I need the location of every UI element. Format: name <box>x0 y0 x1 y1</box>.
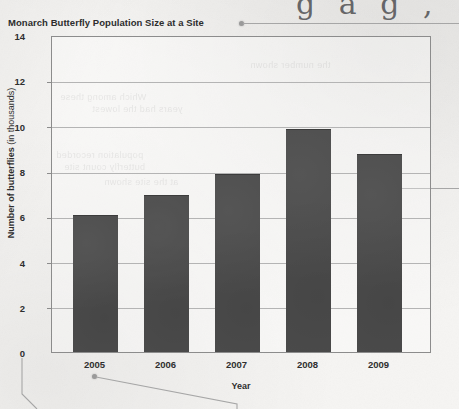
x-tick-label-2006: 2006 <box>155 359 176 370</box>
y-tick-label-12: 12 <box>5 76 25 87</box>
y-tick-label-2: 2 <box>5 303 25 314</box>
y-tick-label-6: 6 <box>5 212 25 223</box>
y-tick-label-10: 10 <box>5 122 25 133</box>
y-axis-title-unit: (in thousands) <box>6 88 16 148</box>
x-axis-title: Year <box>231 381 250 391</box>
gridline-12 <box>52 82 430 83</box>
y-tick-label-14: 14 <box>5 31 25 42</box>
title-leader-line <box>243 23 459 24</box>
chart-title: Monarch Butterfly Population Size at a S… <box>8 17 204 28</box>
x-tick-label-2009: 2009 <box>368 359 389 370</box>
handwritten-note: g a g , <box>296 0 439 21</box>
y-tick-label-8: 8 <box>5 167 25 178</box>
bar-2005 <box>73 215 118 352</box>
y-tick-label-4: 4 <box>5 258 25 269</box>
bar-2007 <box>215 174 260 352</box>
x-tick-label-2005: 2005 <box>84 359 105 370</box>
bar-2009 <box>357 154 402 352</box>
bar-2008 <box>286 129 331 352</box>
y-axis-title-main: Number of butterflies <box>6 147 16 238</box>
y-tick-label-0: 0 <box>5 348 25 359</box>
gridline-10 <box>52 127 430 128</box>
x-tick-label-2008: 2008 <box>297 359 318 370</box>
x-tick-label-2007: 2007 <box>226 359 247 370</box>
bar-2006 <box>144 195 189 352</box>
plot-area <box>51 36 431 353</box>
